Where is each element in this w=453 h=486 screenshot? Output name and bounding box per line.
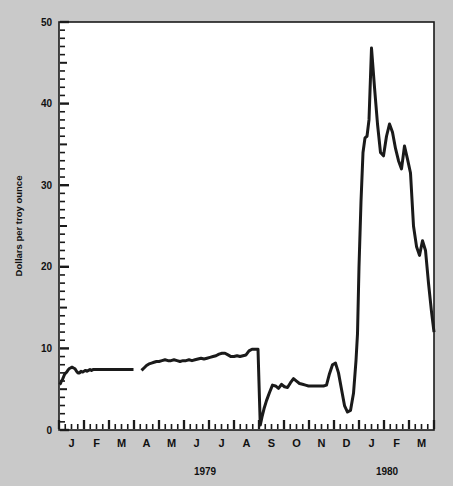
x-axis-year-label-1979: 1979: [194, 466, 217, 477]
x-month-label: S: [268, 437, 275, 449]
x-month-label: O: [292, 437, 301, 449]
x-axis-month-labels: JFMAMJJASONDJFM: [68, 437, 426, 449]
silver-price-line-chart: 50403020100 JFMAMJJASONDJFM Dollars per …: [0, 0, 453, 486]
x-month-label: M: [117, 437, 126, 449]
y-tick-label: 40: [41, 98, 53, 109]
x-month-label: F: [93, 437, 100, 449]
x-month-label: M: [167, 437, 176, 449]
x-month-label: D: [343, 437, 351, 449]
y-tick-label: 20: [41, 261, 53, 272]
y-tick-label: 0: [46, 425, 52, 436]
x-month-label: A: [243, 437, 251, 449]
x-month-label: N: [318, 437, 326, 449]
x-month-label: J: [368, 437, 374, 449]
chart-figure: 50403020100 JFMAMJJASONDJFM Dollars per …: [0, 0, 453, 486]
x-month-label: A: [143, 437, 151, 449]
x-month-label: J: [218, 437, 224, 449]
x-axis-year-label-1980: 1980: [376, 466, 399, 477]
y-tick-label: 30: [41, 180, 53, 191]
x-month-label: M: [417, 437, 426, 449]
y-tick-label: 10: [41, 343, 53, 354]
x-month-label: J: [68, 437, 74, 449]
x-month-label: J: [193, 437, 199, 449]
y-tick-label: 50: [41, 17, 53, 28]
x-month-label: F: [393, 437, 400, 449]
y-axis-title: Dollars per troy ounce: [13, 176, 24, 277]
